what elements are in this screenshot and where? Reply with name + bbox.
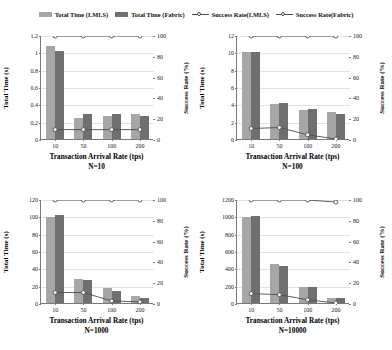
plot-area: 0204060801001200204060801001050100200: [40, 200, 153, 304]
y-tick-label-left: 12: [228, 33, 234, 39]
y-tick-label-left: 600: [225, 249, 234, 255]
y-tick-label-left: 60: [32, 249, 38, 255]
y-tick-mark-left: [39, 304, 41, 305]
line-marker: [277, 36, 281, 38]
y-axis-label-left: Total Time (s): [198, 231, 206, 273]
line-series: [251, 294, 336, 303]
line-marker: [110, 36, 114, 38]
legend-label: Total Time (Fabric): [131, 11, 185, 18]
figure-root: Total Time (LMLS)Total Time (Fabric)Succ…: [0, 0, 392, 350]
y-tick-label-left: 6: [231, 85, 234, 91]
y-tick-label-right: 40: [353, 95, 359, 101]
panel-caption: N=10000: [236, 326, 349, 335]
x-axis-label: Transaction Arrival Rate (tps): [40, 152, 153, 161]
y-tick-label-left: 1.2: [31, 33, 39, 39]
y-tick-label-right: 80: [353, 218, 359, 224]
legend-label: Success Rate(LMLS): [212, 11, 269, 18]
line-marker: [110, 299, 114, 303]
chart-panel-n10000: Total Time (s)Success Rate (%)Transactio…: [196, 186, 392, 350]
y-axis-label-left: Total Time (s): [2, 67, 10, 109]
line-marker: [306, 298, 310, 302]
line-marker: [110, 128, 114, 132]
x-tick-label: 10: [52, 143, 58, 149]
y-tick-mark-right: [349, 304, 351, 305]
line-marker: [306, 36, 310, 38]
plot-area: 0200400600800100012000204060801001050100…: [236, 200, 349, 304]
y-tick-label-right: 0: [157, 301, 160, 307]
line-marker: [334, 36, 338, 38]
y-tick-label-left: 120: [29, 197, 38, 203]
y-axis-label-left: Total Time (s): [198, 67, 206, 109]
line-marker: [277, 126, 281, 130]
line-marker: [334, 301, 338, 304]
line-marker: [249, 127, 253, 131]
y-tick-label-right: 20: [353, 116, 359, 122]
line-marker: [249, 36, 253, 38]
y-tick-label-right: 60: [353, 239, 359, 245]
y-tick-label-right: 40: [353, 259, 359, 265]
y-tick-label-left: 2: [231, 120, 234, 126]
legend-bar-swatch-icon: [115, 12, 128, 17]
panel-caption: N=10: [40, 162, 153, 171]
line-marker: [53, 128, 57, 132]
line-marker: [306, 200, 310, 202]
legend-entry: Success Rate(LMLS): [192, 11, 269, 18]
y-tick-label-right: 20: [157, 116, 163, 122]
x-axis-label: Transaction Arrival Rate (tps): [40, 316, 153, 325]
line-layer: [237, 200, 350, 304]
y-tick-label-left: 100: [29, 214, 38, 220]
plot-area: 00.20.40.60.811.20204060801001050100200: [40, 36, 153, 140]
y-tick-label-right: 80: [157, 218, 163, 224]
legend-entry: Total Time (LMLS): [39, 11, 109, 18]
y-tick-label-left: 800: [225, 232, 234, 238]
y-tick-label-right: 0: [353, 301, 356, 307]
y-tick-label-left: 0: [231, 301, 234, 307]
y-tick-label-left: 40: [32, 266, 38, 272]
x-tick-label: 200: [135, 307, 144, 313]
y-tick-label-left: 1000: [222, 214, 234, 220]
x-tick-label: 50: [80, 307, 86, 313]
x-tick-label: 100: [107, 307, 116, 313]
line-marker: [249, 292, 253, 296]
x-tick-label: 10: [248, 143, 254, 149]
legend-line-marker-icon: [276, 11, 293, 18]
x-tick-label: 50: [80, 143, 86, 149]
panel-caption: N=100: [236, 162, 349, 171]
y-tick-label-right: 20: [353, 280, 359, 286]
y-tick-label-right: 60: [157, 239, 163, 245]
y-tick-label-right: 60: [157, 75, 163, 81]
y-axis-label-right: Success Rate (%): [182, 62, 190, 114]
y-tick-label-left: 0: [35, 137, 38, 143]
y-axis-label-right: Success Rate (%): [378, 62, 386, 114]
y-tick-label-left: 0.2: [31, 120, 39, 126]
y-tick-label-left: 4: [231, 102, 234, 108]
y-tick-label-right: 60: [353, 75, 359, 81]
y-tick-label-left: 400: [225, 266, 234, 272]
x-tick-label: 200: [331, 307, 340, 313]
y-tick-label-left: 0: [35, 301, 38, 307]
y-tick-mark-right: [153, 304, 155, 305]
y-tick-label-right: 80: [353, 54, 359, 60]
y-tick-label-left: 0: [231, 137, 234, 143]
figure-legend: Total Time (LMLS)Total Time (Fabric)Succ…: [0, 11, 392, 18]
y-tick-label-right: 100: [353, 197, 362, 203]
line-marker: [53, 200, 57, 202]
legend-bar-swatch-icon: [39, 12, 52, 17]
panel-caption: N=1000: [40, 326, 153, 335]
line-marker: [138, 36, 142, 38]
y-tick-label-right: 80: [157, 54, 163, 60]
legend-line-marker-icon: [192, 11, 209, 18]
y-tick-label-left: 1200: [222, 197, 234, 203]
y-tick-label-left: 200: [225, 284, 234, 290]
x-axis-label: Transaction Arrival Rate (tps): [236, 316, 349, 325]
y-tick-label-right: 100: [353, 33, 362, 39]
line-marker: [306, 133, 310, 137]
x-tick-label: 50: [276, 307, 282, 313]
plot-area: 0246810120204060801001050100200: [236, 36, 349, 140]
y-tick-label-right: 0: [157, 137, 160, 143]
legend-entry: Success Rate(Fabric): [276, 11, 353, 18]
line-series: [251, 200, 336, 202]
y-tick-mark-right: [349, 140, 351, 141]
chart-panel-n100: Total Time (s)Success Rate (%)Transactio…: [196, 22, 392, 186]
line-marker: [53, 291, 57, 295]
